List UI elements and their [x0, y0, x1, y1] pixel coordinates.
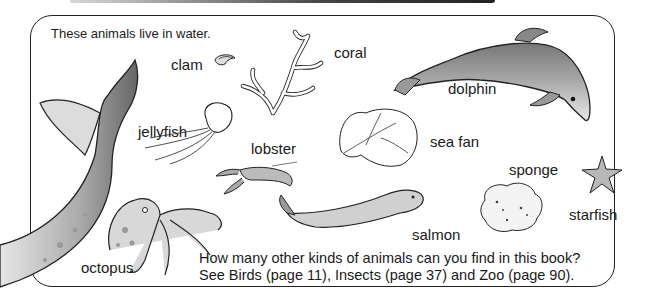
coral-illustration: [233, 28, 328, 123]
starfish-illustration: [578, 154, 626, 196]
label-dolphin: dolphin: [448, 81, 496, 96]
label-sponge: sponge: [509, 162, 558, 177]
label-salmon: salmon: [412, 227, 460, 242]
question-line-2: See Birds (page 11), Insects (page 37) a…: [199, 267, 580, 284]
label-lobster: lobster: [251, 141, 296, 156]
label-coral: coral: [334, 45, 367, 60]
question-line-1: How many other kinds of animals can you …: [199, 250, 580, 267]
label-sea-fan: sea fan: [430, 134, 479, 149]
question-text: How many other kinds of animals can you …: [199, 250, 580, 284]
label-jellyfish: jellyfish: [138, 124, 187, 139]
intro-text: These animals live in water.: [51, 26, 211, 41]
top-rule: [70, 0, 495, 3]
dolphin-illustration: [390, 20, 605, 140]
sea-fan-illustration: [336, 103, 421, 171]
label-starfish: starfish: [569, 207, 617, 222]
label-octopus: octopus: [81, 260, 134, 275]
salmon-illustration: [275, 185, 430, 235]
sponge-illustration: [477, 180, 547, 235]
label-clam: clam: [171, 57, 203, 72]
